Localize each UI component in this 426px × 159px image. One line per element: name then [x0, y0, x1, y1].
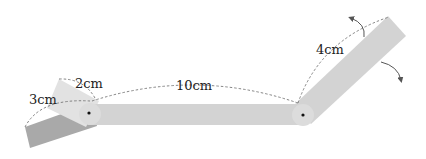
label-10cm: 10cm — [176, 78, 212, 93]
label-4cm: 4cm — [316, 42, 344, 57]
right-pivot-dot — [301, 113, 304, 116]
label-3cm: 3cm — [29, 92, 57, 107]
folding-bar-diagram: 3cm 2cm 10cm 4cm — [0, 0, 426, 159]
label-2cm: 2cm — [75, 76, 103, 91]
rotation-arrow-down-icon — [381, 62, 401, 80]
left-pivot-dot — [87, 111, 90, 114]
middle-bar — [88, 104, 303, 125]
